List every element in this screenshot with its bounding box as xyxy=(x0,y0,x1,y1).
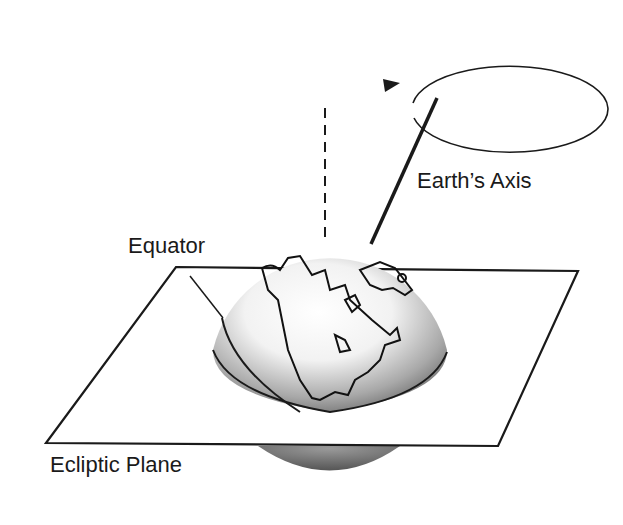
ecliptic-diagram: Earth’s Axis Equator Ecliptic Plane xyxy=(0,0,623,525)
arrowhead-icon xyxy=(383,79,400,92)
precession-ellipse xyxy=(413,66,608,152)
label-ecliptic-plane: Ecliptic Plane xyxy=(50,452,182,477)
label-equator: Equator xyxy=(128,233,205,258)
globe-bottom xyxy=(258,446,400,471)
label-earths-axis: Earth’s Axis xyxy=(417,168,532,193)
